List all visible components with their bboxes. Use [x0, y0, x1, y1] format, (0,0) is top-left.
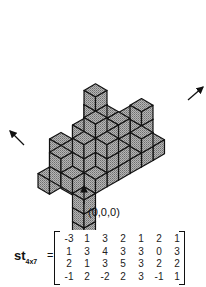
matrix-cell: 3: [132, 271, 150, 284]
matrix-cell: 1: [132, 233, 150, 246]
matrix-cell: -2: [96, 271, 114, 284]
matrix-cell: 2: [60, 258, 78, 271]
matrix-dimension: 4x7: [26, 258, 38, 265]
matrix-symbol: st: [14, 248, 26, 263]
origin-label: (0,0,0): [88, 206, 120, 218]
matrix-cell: 1: [78, 233, 96, 246]
equals-sign: =: [47, 249, 53, 261]
matrix-cell: 3: [96, 258, 114, 271]
matrix-cell: 2: [114, 233, 132, 246]
matrix-cell: 3: [78, 246, 96, 259]
column-axis-arrow-icon: [188, 87, 203, 100]
isometric-cube-stack: [0, 0, 206, 230]
matrix-cell: 2: [114, 271, 132, 284]
matrix-cell: 1: [78, 258, 96, 271]
matrix-cell: 3: [114, 246, 132, 259]
matrix-cell: 4: [96, 246, 114, 259]
matrix-grid: -313212113433032135322-12-223-11: [60, 233, 186, 283]
matrix-cell: -1: [60, 271, 78, 284]
right-bracket: [179, 231, 185, 285]
matrix-cell: -1: [150, 271, 168, 284]
row-axis-arrow-icon: [10, 131, 24, 145]
matrix-equation: st4x7 = -313212113433032135322-12-223-11: [14, 229, 204, 285]
matrix-cell: 3: [132, 246, 150, 259]
matrix-name: st4x7: [14, 248, 37, 265]
matrix-cell: 1: [60, 246, 78, 259]
matrix-cell: 3: [96, 233, 114, 246]
matrix-cell: 2: [150, 233, 168, 246]
matrix-cell: 2: [78, 271, 96, 284]
matrix-cell: 2: [150, 258, 168, 271]
matrix-cell: 5: [114, 258, 132, 271]
matrix-cell: 0: [150, 246, 168, 259]
matrix-cell: 3: [132, 258, 150, 271]
matrix-cell: -3: [60, 233, 78, 246]
